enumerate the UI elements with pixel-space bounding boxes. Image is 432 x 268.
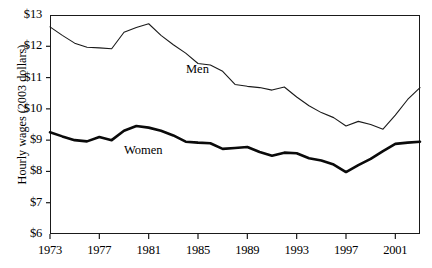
series-line-men: [50, 24, 420, 129]
chart-svg-layer: [0, 0, 432, 268]
series-lines-group: [50, 24, 420, 172]
series-label-women: Women: [124, 144, 163, 157]
axis-tick-marks: [46, 46, 395, 239]
series-label-men: Men: [186, 63, 209, 76]
series-line-women: [50, 126, 420, 172]
wage-line-chart: Hourly wages (2003 dollars) $13$12$11$10…: [0, 0, 432, 268]
